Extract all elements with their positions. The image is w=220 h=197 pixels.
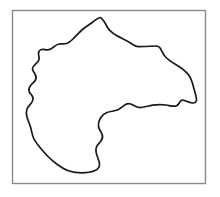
figure-canvas: Hand-drawn closed outline figure: [0, 0, 220, 197]
outline-figure-svg: [0, 0, 220, 197]
